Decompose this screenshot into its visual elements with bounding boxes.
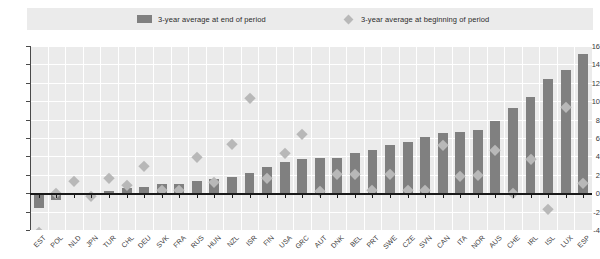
- legend-item-end-of-period: 3-year average at end of period: [137, 15, 266, 24]
- y-axis-tick-mark: [26, 138, 30, 139]
- x-axis-label-SWE: SWE: [379, 234, 398, 253]
- x-axis-label-DNK: DNK: [326, 234, 345, 253]
- x-axis-tick-mark: [162, 194, 163, 198]
- y-axis-tick-mark: [26, 156, 30, 157]
- x-axis-tick-mark: [408, 194, 409, 198]
- gridline-vertical: [276, 46, 277, 230]
- gridline-vertical: [504, 46, 505, 230]
- gridline-vertical: [293, 46, 294, 230]
- x-axis-label-CHE: CHE: [502, 234, 521, 253]
- x-axis-label-USA: USA: [274, 234, 293, 253]
- gridline-vertical: [65, 46, 66, 230]
- x-axis-label-SVN: SVN: [414, 234, 433, 253]
- x-axis-label-LUX: LUX: [555, 234, 574, 253]
- x-axis-label-AUS: AUS: [484, 234, 503, 253]
- x-axis-label-RUS: RUS: [186, 234, 205, 253]
- gridline-vertical: [135, 46, 136, 230]
- zero-baseline: [30, 193, 592, 195]
- x-axis-tick-mark: [337, 194, 338, 198]
- x-axis-label-HUN: HUN: [203, 234, 222, 253]
- x-axis-tick-mark: [127, 194, 128, 198]
- x-axis-tick-mark: [548, 194, 549, 198]
- x-axis-label-FIN: FIN: [256, 234, 275, 253]
- plot-area: [30, 46, 592, 230]
- x-axis-tick-mark: [425, 194, 426, 198]
- y-axis-tick-mark: [26, 83, 30, 84]
- x-axis-label-GRC: GRC: [291, 234, 310, 253]
- x-axis-tick-mark: [179, 194, 180, 198]
- y-axis-tick-label: -2: [576, 207, 600, 216]
- gridline-vertical: [171, 46, 172, 230]
- bar-USA: [280, 162, 290, 193]
- x-axis-tick-mark: [583, 194, 584, 198]
- y-axis-tick-mark: [26, 46, 30, 47]
- x-axis-label-PRT: PRT: [361, 234, 380, 253]
- x-axis-label-SVK: SVK: [151, 234, 170, 253]
- y-axis-tick-label: 14: [576, 60, 600, 69]
- x-axis-label-ESP: ESP: [572, 234, 591, 253]
- x-axis-tick-mark: [232, 194, 233, 198]
- x-axis-tick-mark: [355, 194, 356, 198]
- x-axis-tick-mark: [39, 194, 40, 198]
- legend-label-end-of-period: 3-year average at end of period: [158, 15, 266, 24]
- bar-AUS: [490, 121, 500, 193]
- y-axis-tick-mark: [26, 101, 30, 102]
- x-axis-label-TUR: TUR: [98, 234, 117, 253]
- bar-GRC: [297, 159, 307, 193]
- bar-RUS: [192, 181, 202, 193]
- gridline-vertical: [487, 46, 488, 230]
- x-axis-label-DEU: DEU: [133, 234, 152, 253]
- gridline-vertical: [539, 46, 540, 230]
- gridline-vertical: [434, 46, 435, 230]
- gridline-vertical: [241, 46, 242, 230]
- gridline-vertical: [329, 46, 330, 230]
- bar-NOR: [473, 130, 483, 193]
- y-axis-tick-label: 2: [576, 170, 600, 179]
- x-axis-label-FRA: FRA: [168, 234, 187, 253]
- y-axis-tick-mark: [26, 120, 30, 121]
- x-axis-tick-mark: [443, 194, 444, 198]
- x-axis-label-AUT: AUT: [309, 234, 328, 253]
- x-axis-tick-mark: [285, 194, 286, 198]
- gridline-vertical: [153, 46, 154, 230]
- x-axis-label-CAN: CAN: [432, 234, 451, 253]
- y-axis-tick-label: 8: [576, 115, 600, 124]
- x-axis-label-JPN: JPN: [80, 234, 99, 253]
- diamond-NZL: [227, 138, 238, 149]
- y-axis-tick-mark: [26, 230, 30, 231]
- legend-label-beginning-of-period: 3-year average at beginning of period: [361, 15, 489, 24]
- gridline-vertical: [346, 46, 347, 230]
- gridline-vertical: [364, 46, 365, 230]
- bar-IRL: [526, 97, 536, 194]
- gridline-vertical: [557, 46, 558, 230]
- x-axis-tick-mark: [390, 194, 391, 198]
- x-axis-tick-mark: [74, 194, 75, 198]
- plot-wrapper: -4-20246810121416 ESTPOLNLDJPNTURCHLDEUS…: [0, 40, 600, 259]
- gridline-vertical: [452, 46, 453, 230]
- y-axis-tick-label: 10: [576, 97, 600, 106]
- gridline-vertical: [381, 46, 382, 230]
- gridline-vertical: [469, 46, 470, 230]
- x-axis-tick-mark: [513, 194, 514, 198]
- gridline-vertical: [100, 46, 101, 230]
- x-axis-tick-mark: [109, 194, 110, 198]
- x-axis-tick-mark: [320, 194, 321, 198]
- gridline-vertical: [83, 46, 84, 230]
- bar-NZL: [227, 177, 237, 194]
- x-axis-tick-mark: [495, 194, 496, 198]
- y-axis-tick-mark: [26, 64, 30, 65]
- x-axis-tick-mark: [197, 194, 198, 198]
- x-axis-label-IRL: IRL: [519, 234, 538, 253]
- chart-legend: 3-year average at end of period 3-year a…: [27, 8, 593, 30]
- x-axis-tick-mark: [250, 194, 251, 198]
- gridline-vertical: [188, 46, 189, 230]
- x-axis-label-NLD: NLD: [63, 234, 82, 253]
- bar-LUX: [561, 70, 571, 193]
- y-axis-tick-label: 4: [576, 152, 600, 161]
- x-axis-tick-mark: [302, 194, 303, 198]
- gridline-vertical: [258, 46, 259, 230]
- diamond-NLD: [69, 176, 80, 187]
- x-axis-tick-mark: [566, 194, 567, 198]
- x-axis-tick-mark: [56, 194, 57, 198]
- x-axis-label-NOR: NOR: [467, 234, 486, 253]
